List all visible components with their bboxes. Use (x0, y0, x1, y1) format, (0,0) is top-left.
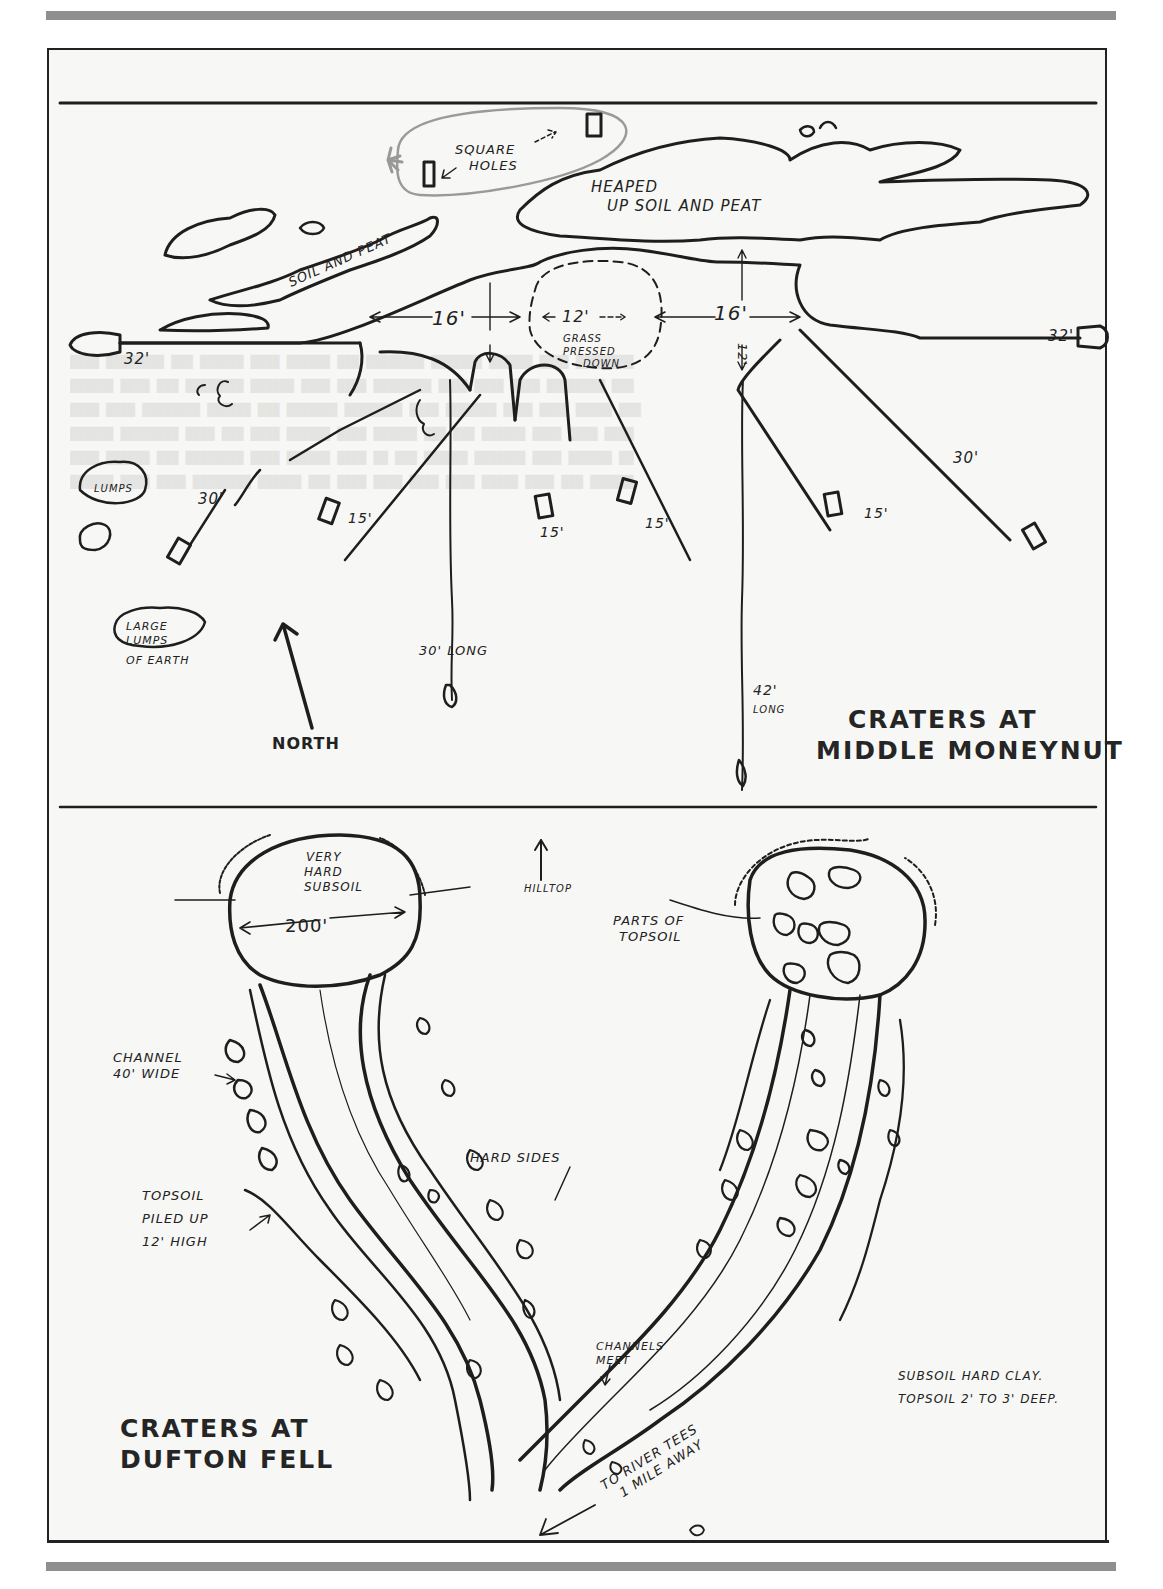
label-grass-line1: GRASS (563, 333, 602, 344)
label-channel-line1: CHANNEL (113, 1050, 183, 1065)
label-square-holes: SQUAREHOLES (455, 142, 518, 175)
label-right-30: 30' (953, 449, 979, 468)
label-very-hard-line2: HARD (304, 865, 343, 879)
label-dim-left-16: 16' (432, 306, 466, 331)
title-dufton-fell-line2: DUFTON FELL (120, 1445, 334, 1474)
label-parts-of-topsoil: PARTS OFTOPSOIL (613, 913, 684, 946)
sketch-artwork (0, 0, 1163, 1589)
label-grass-pressed: GRASSPRESSEDDOWN (563, 333, 620, 371)
title-middle-moneynut-line2: MIDDLE MONEYNUT (816, 736, 1124, 765)
label-large-line2: LUMPS (126, 634, 168, 647)
label-parts-line2: TOPSOIL (613, 929, 682, 944)
label-dim-right-16: 16' (714, 301, 748, 326)
label-42-long: 42'LONG (753, 682, 785, 717)
label-dim-vertical-12: 12' (734, 343, 750, 366)
title-middle-moneynut-line1: CRATERS AT (816, 705, 1038, 734)
label-topsoil-piled: TOPSOILPILED UP12' HIGH (142, 1185, 209, 1253)
label-30-long: 30' LONG (419, 643, 488, 659)
label-topsoil-note: TOPSOIL 2' TO 3' DEEP. (898, 1392, 1059, 1406)
label-large-line1: LARGE (126, 620, 168, 633)
label-ray-15-c: 15' (645, 515, 670, 533)
label-lumps: LUMPS (94, 483, 133, 496)
square-hole-icon (587, 114, 601, 136)
label-very-hard-line3: SUBSOIL (304, 880, 363, 894)
title-middle-moneynut: CRATERS ATMIDDLE MONEYNUT (816, 704, 1124, 767)
hilltop-arrow-icon (535, 840, 547, 880)
label-heaped-soil: HEAPEDUP SOIL AND PEAT (591, 178, 761, 216)
river-direction-arrow-icon (540, 1505, 595, 1535)
label-grass-line2: PRESSED (563, 346, 616, 357)
label-soil-notes: SUBSOIL HARD CLAY.TOPSOIL 2' TO 3' DEEP. (898, 1365, 1059, 1411)
label-ray-15-b: 15' (540, 524, 565, 542)
label-large-lumps: LARGELUMPSOF EARTH (126, 620, 190, 667)
label-ray-15-a: 15' (348, 510, 373, 528)
label-large-line3: OF EARTH (126, 654, 190, 668)
label-channels-meet-line1: CHANNELS (596, 1340, 664, 1353)
label-topsoil-line3: 12' HIGH (142, 1234, 208, 1249)
label-square-holes-line2: HOLES (455, 158, 518, 173)
label-channel-40-wide: CHANNEL40' WIDE (113, 1050, 183, 1083)
label-diameter-200: 200' (285, 915, 328, 938)
label-north: NORTH (272, 734, 340, 754)
label-topsoil-line2: PILED UP (142, 1211, 209, 1226)
label-parts-line1: PARTS OF (613, 913, 684, 928)
label-42-line1: 42' (753, 682, 778, 698)
label-channel-line2: 40' WIDE (113, 1066, 180, 1081)
label-very-hard-line1: VERY (304, 850, 341, 864)
label-heaped-line2: UP SOIL AND PEAT (591, 197, 761, 215)
label-channels-meet: CHANNELSMEET (596, 1340, 664, 1368)
label-grass-line3: DOWN (563, 358, 620, 369)
label-42-line2: LONG (753, 704, 785, 715)
label-ray-15-d: 15' (864, 505, 889, 523)
label-left-32: 32' (124, 350, 150, 369)
north-arrow-icon (275, 624, 312, 728)
title-dufton-fell-line1: CRATERS AT (120, 1414, 310, 1443)
label-channels-meet-line2: MEET (596, 1354, 630, 1367)
label-hilltop: HILLTOP (524, 883, 572, 896)
label-right-32: 32' (1048, 327, 1074, 346)
label-hard-sides: HARD SIDES (470, 1150, 560, 1166)
label-heaped-line1: HEAPED (591, 178, 658, 196)
label-topsoil-line1: TOPSOIL (142, 1188, 205, 1203)
label-square-holes-line1: SQUARE (455, 142, 515, 157)
label-left-30: 30' (198, 490, 224, 509)
label-very-hard-subsoil: VERYHARDSUBSOIL (304, 850, 363, 895)
label-subsoil-note: SUBSOIL HARD CLAY. (898, 1369, 1043, 1383)
title-dufton-fell: CRATERS ATDUFTON FELL (120, 1413, 334, 1476)
label-dim-center-12: 12' (562, 307, 590, 327)
